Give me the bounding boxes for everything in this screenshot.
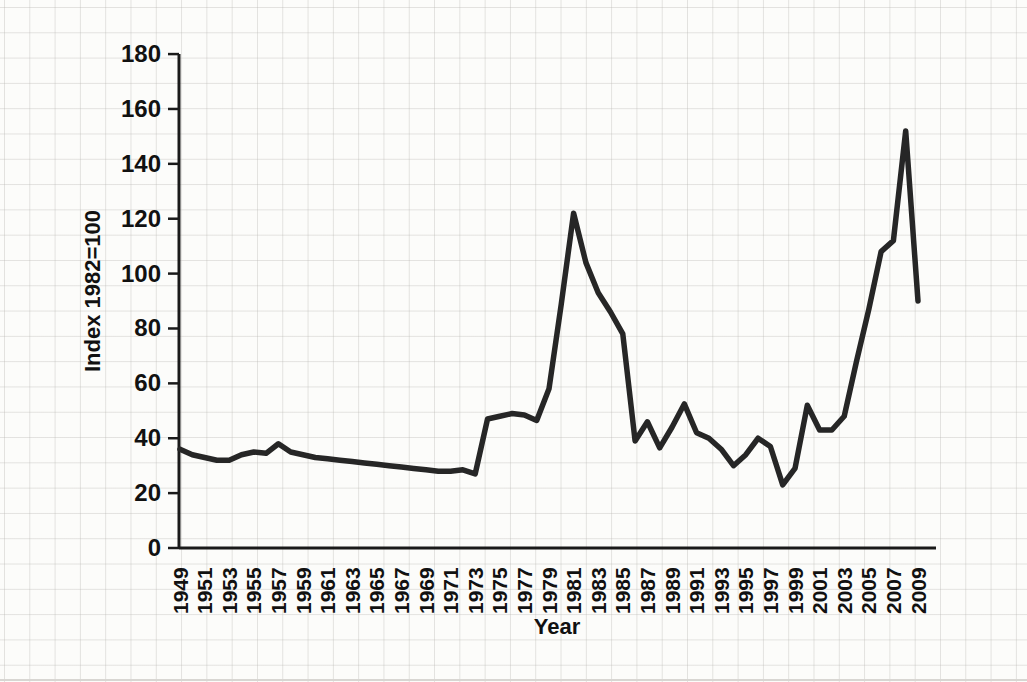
x-tick-label: 1949	[169, 567, 192, 614]
y-tick-label: 180	[121, 40, 161, 67]
x-tick-label: 1989	[661, 567, 684, 614]
page-edge-shadow	[0, 679, 1027, 681]
x-tick-label: 2001	[808, 567, 831, 614]
x-tick-label: 1967	[390, 567, 413, 614]
y-tick-label: 100	[121, 260, 161, 287]
x-axis-title: Year	[534, 614, 581, 639]
x-tick-label: 1985	[611, 567, 634, 614]
x-tick-label: 1995	[734, 567, 757, 614]
x-tick-label: 1969	[415, 567, 438, 614]
x-tick-label: 1971	[439, 567, 462, 614]
x-tick-label: 1993	[710, 567, 733, 614]
y-axis-title: Index 1982=100	[80, 210, 105, 372]
y-tick-label: 40	[134, 424, 161, 451]
x-tick-label: 1951	[193, 567, 216, 614]
x-tick-label: 2003	[833, 567, 856, 614]
index-line-series	[180, 131, 918, 485]
x-tick-label: 1961	[316, 567, 339, 614]
x-tick-label: 1981	[562, 567, 585, 614]
x-tick-label: 1977	[513, 567, 536, 614]
graph-paper-background: 2009200720052003200119991997199519931991…	[0, 0, 1027, 682]
x-tick-label: 1957	[267, 567, 290, 614]
x-tick-label: 1963	[341, 567, 364, 614]
x-tick-label: 1953	[218, 567, 241, 614]
x-tick-label: 2007	[882, 567, 905, 614]
y-tick-label: 60	[134, 369, 161, 396]
y-tick-label: 0	[148, 534, 161, 561]
y-tick-label: 160	[121, 95, 161, 122]
x-tick-label: 1997	[759, 567, 782, 614]
x-tick-label: 1965	[365, 567, 388, 614]
x-tick-label: 1991	[685, 567, 708, 614]
x-tick-label: 1955	[242, 567, 265, 614]
x-tick-label: 1987	[636, 567, 659, 614]
y-tick-label: 20	[134, 479, 161, 506]
x-tick-label: 2009	[907, 567, 930, 614]
y-tick-label: 140	[121, 150, 161, 177]
x-tick-label: 1975	[488, 567, 511, 614]
x-tick-label: 1979	[538, 567, 561, 614]
x-tick-label: 2005	[857, 567, 880, 614]
line-chart: 2009200720052003200119991997199519931991…	[0, 0, 1027, 682]
x-tick-label: 1959	[292, 567, 315, 614]
x-tick-label: 1973	[464, 567, 487, 614]
y-tick-label: 80	[134, 314, 161, 341]
x-tick-label: 1999	[784, 567, 807, 614]
y-tick-label: 120	[121, 205, 161, 232]
x-tick-label: 1983	[587, 567, 610, 614]
